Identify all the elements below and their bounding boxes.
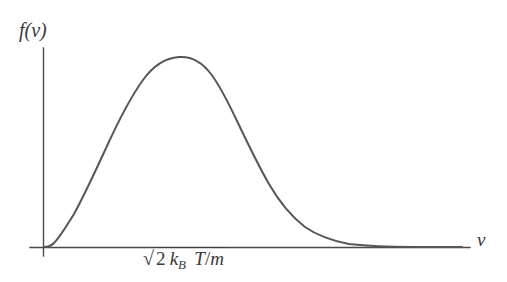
temperature-symbol: T xyxy=(194,248,205,269)
mass-symbol: m xyxy=(210,248,224,269)
most-probable-speed-annotation: √ 2kBT/m xyxy=(143,247,226,271)
radical-sign-icon: √ xyxy=(143,248,154,268)
radicand-expression: 2kBT/m xyxy=(154,247,226,271)
y-axis-label: f(ν) xyxy=(19,20,47,40)
distribution-curve xyxy=(44,57,462,247)
plot-canvas xyxy=(0,0,507,282)
boltzmann-constant-subscript: B xyxy=(178,257,186,272)
coefficient-2: 2 xyxy=(156,248,166,269)
x-axis-label: ν xyxy=(477,230,485,249)
maxwell-boltzmann-distribution-figure: f(ν) ν √ 2kBT/m xyxy=(0,0,507,282)
boltzmann-constant-symbol: k xyxy=(170,248,178,269)
